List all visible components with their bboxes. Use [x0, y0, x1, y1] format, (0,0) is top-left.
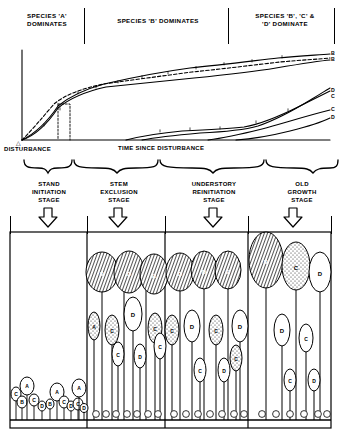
- svg-text:C: C: [214, 328, 218, 334]
- arrow-stage-2: [109, 208, 127, 227]
- stage-arrows: [0, 206, 342, 230]
- stage-4-line1: OLD: [266, 180, 338, 188]
- stage-1-line1: STAND: [10, 180, 88, 188]
- panel-understory-reinitiation-trees: DDB CD CD CD C: [165, 251, 248, 420]
- svg-text:D: D: [127, 271, 132, 277]
- brace-stage-3: [160, 160, 264, 173]
- curve-d-lower: [236, 118, 330, 140]
- stage-label-stem-exclusion: STEM EXCLUSION STAGE: [80, 180, 158, 205]
- stage-4-line3: STAGE: [266, 196, 338, 204]
- panel-stem-exclusion-trees: BDB AC DC CD C: [86, 251, 168, 420]
- stage-label-stand-initiation: STAND INITIATION STAGE: [10, 180, 88, 205]
- species-band-a-line1: SPECIES 'A': [8, 12, 86, 20]
- species-band-d: SPECIES 'B', 'C' & 'D' DOMINATE: [232, 12, 338, 29]
- curve-label-d2: D: [331, 114, 335, 120]
- header-divider-left: [84, 8, 85, 44]
- panel-old-growth-trees: B C D D C C D: [249, 232, 331, 420]
- svg-text:A: A: [77, 385, 81, 391]
- svg-text:D: D: [222, 368, 226, 374]
- species-band-a-line2: DOMINATES: [8, 20, 86, 28]
- panel-stand-initiation-trees: CAB CDB ACD ACD: [11, 377, 88, 420]
- curve-tick-marks: [44, 56, 288, 132]
- svg-text:C: C: [110, 328, 114, 334]
- svg-text:C: C: [153, 326, 157, 332]
- disturbance-marker: △: [16, 139, 21, 146]
- disturbance-label: DISTURBANCE: [4, 146, 51, 152]
- svg-text:C: C: [234, 356, 238, 362]
- svg-text:C: C: [198, 368, 202, 374]
- stage-1-line3: STAGE: [10, 196, 88, 204]
- curve-b-second: [22, 60, 330, 140]
- stage-3-line2: REINITIATION: [172, 188, 256, 196]
- stage-4-line2: GROWTH: [266, 188, 338, 196]
- stage-1-line2: INITIATION: [10, 188, 88, 196]
- stage-3-line1: UNDERSTORY: [172, 180, 256, 188]
- svg-text:C: C: [32, 397, 36, 403]
- svg-text:A: A: [25, 383, 29, 389]
- stage-label-understory-reinitiation: UNDERSTORY REINITIATION STAGE: [172, 180, 256, 205]
- svg-text:B: B: [20, 399, 24, 405]
- svg-text:A: A: [55, 389, 59, 395]
- stage-label-old-growth: OLD GROWTH STAGE: [266, 180, 338, 205]
- stage-2-line1: STEM: [80, 180, 158, 188]
- species-abundance-chart: B B D C C D: [0, 44, 342, 158]
- x-axis-label: TIME SINCE DISTURBANCE: [118, 145, 204, 151]
- stage-3-line3: STAGE: [172, 196, 256, 204]
- brace-stage-2: [74, 160, 158, 173]
- svg-text:D: D: [40, 403, 44, 409]
- curve-label-c2: C: [331, 106, 335, 112]
- svg-text:C: C: [158, 344, 162, 350]
- svg-text:C: C: [294, 265, 299, 271]
- arrow-stage-4: [284, 208, 302, 227]
- svg-text:D: D: [82, 405, 86, 411]
- stage-2-line2: EXCLUSION: [80, 188, 158, 196]
- svg-text:C: C: [170, 328, 174, 334]
- stage-brace-row: [0, 156, 342, 178]
- svg-text:C: C: [14, 391, 18, 397]
- species-band-a: SPECIES 'A' DOMINATES: [8, 12, 86, 29]
- svg-text:C: C: [288, 378, 292, 384]
- forest-stand-development-figure: SPECIES 'A' DOMINATES SPECIES 'B' DOMINA…: [0, 0, 342, 436]
- species-dominance-header: SPECIES 'A' DOMINATES SPECIES 'B' DOMINA…: [0, 0, 342, 46]
- curve-label-c1: C: [331, 93, 335, 99]
- species-band-d-line2: 'D' DOMINATE: [232, 20, 338, 28]
- svg-text:C: C: [76, 401, 80, 407]
- header-divider-right: [334, 8, 335, 44]
- svg-text:D: D: [131, 312, 136, 318]
- svg-text:D: D: [69, 403, 73, 409]
- stage-2-line3: STAGE: [80, 196, 158, 204]
- species-band-b-line1: SPECIES 'B' DOMINATES: [88, 17, 228, 25]
- svg-text:B: B: [48, 401, 52, 407]
- svg-text:A: A: [92, 324, 96, 330]
- svg-text:D: D: [202, 269, 207, 275]
- svg-text:D: D: [312, 378, 316, 384]
- svg-text:C: C: [116, 352, 120, 358]
- svg-text:D: D: [178, 271, 183, 277]
- svg-text:C: C: [304, 336, 308, 342]
- svg-text:C: C: [62, 399, 66, 405]
- svg-text:B: B: [264, 259, 269, 265]
- brace-stage-1: [24, 160, 72, 173]
- curve-label-b2: B: [331, 56, 335, 62]
- header-divider-mid: [228, 8, 229, 44]
- species-band-b: SPECIES 'B' DOMINATES: [88, 17, 228, 25]
- arrow-stage-3: [204, 208, 222, 227]
- arrow-stage-1: [39, 208, 57, 227]
- svg-text:B: B: [152, 273, 157, 279]
- curve-c-upper: [126, 91, 330, 140]
- brace-stage-4: [266, 160, 338, 173]
- svg-text:D: D: [238, 324, 243, 330]
- svg-text:D: D: [280, 328, 285, 334]
- svg-text:B: B: [100, 271, 105, 277]
- forest-cross-section: CAB CDB ACD ACD: [0, 230, 342, 436]
- svg-text:D: D: [318, 271, 323, 277]
- species-band-d-line1: SPECIES 'B', 'C' &: [232, 12, 338, 20]
- svg-text:B: B: [226, 269, 231, 275]
- svg-text:D: D: [138, 354, 142, 360]
- svg-text:D: D: [190, 324, 195, 330]
